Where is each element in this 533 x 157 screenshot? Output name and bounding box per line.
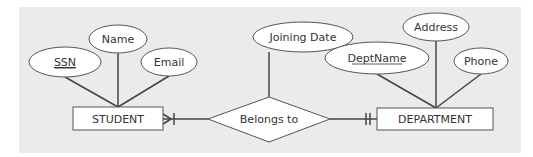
attribute-address: Address xyxy=(403,13,469,41)
svg-text:Name: Name xyxy=(102,33,135,46)
attribute-deptname: DeptName xyxy=(325,42,429,74)
svg-text:Address: Address xyxy=(414,21,458,34)
svg-text:DeptName: DeptName xyxy=(348,52,407,65)
svg-text:Email: Email xyxy=(154,56,185,69)
svg-text:DEPARTMENT: DEPARTMENT xyxy=(398,113,472,126)
attribute-email: Email xyxy=(141,48,197,76)
svg-text:STUDENT: STUDENT xyxy=(92,113,144,126)
svg-text:Belongs to: Belongs to xyxy=(240,113,299,126)
svg-text:Phone: Phone xyxy=(464,55,498,68)
attribute-ssn: SSN xyxy=(29,47,101,77)
svg-text:Joining Date: Joining Date xyxy=(269,31,337,44)
entity-student: STUDENT xyxy=(73,107,163,130)
er-diagram: SSN Name Email Joining Date DeptName Add… xyxy=(0,0,533,157)
svg-text:SSN: SSN xyxy=(54,56,76,69)
entity-department: DEPARTMENT xyxy=(377,108,493,130)
attribute-name: Name xyxy=(89,25,147,53)
attribute-phone: Phone xyxy=(454,48,508,74)
